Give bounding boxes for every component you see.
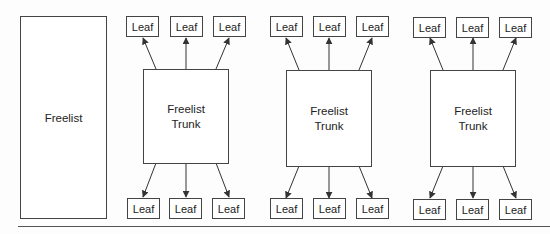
leaf-t1-top-2: Leaf — [170, 16, 203, 37]
leaf-t1-bottom-2: Leaf — [169, 198, 202, 219]
trunk-label-line2: Trunk — [172, 117, 201, 132]
trunk-label-line1: Freelist — [454, 104, 492, 119]
leaf-t3-bottom-3: Leaf — [499, 199, 532, 220]
leaf-t3-top-2: Leaf — [456, 17, 489, 38]
bottom-divider — [18, 226, 550, 227]
leaf-t2-top-3: Leaf — [356, 16, 389, 37]
leaf-t3-bottom-2: Leaf — [456, 199, 489, 220]
leaf-t2-bottom-1: Leaf — [270, 198, 303, 219]
leaf-t2-bottom-3: Leaf — [356, 198, 389, 219]
leaf-t1-bottom-3: Leaf — [212, 198, 245, 219]
leaf-t1-bottom-1: Leaf — [127, 198, 160, 219]
freelist-trunk-2: Freelist Trunk — [286, 70, 372, 167]
leaf-t2-top-2: Leaf — [313, 16, 346, 37]
trunk-label-line2: Trunk — [315, 119, 344, 134]
leaf-t1-top-1: Leaf — [126, 16, 159, 37]
leaf-t3-bottom-1: Leaf — [413, 199, 446, 220]
freelist-box: Freelist — [20, 16, 107, 219]
freelist-label: Freelist — [45, 112, 83, 124]
trunk-label-line1: Freelist — [310, 104, 348, 119]
trunk-label-line1: Freelist — [167, 102, 205, 117]
leaf-t3-top-1: Leaf — [413, 17, 446, 38]
freelist-trunk-1: Freelist Trunk — [143, 69, 229, 164]
freelist-trunk-3: Freelist Trunk — [430, 70, 516, 167]
trunk-label-line2: Trunk — [459, 119, 488, 134]
leaf-t3-top-3: Leaf — [499, 17, 532, 38]
leaf-t1-top-3: Leaf — [213, 16, 246, 37]
leaf-t2-bottom-2: Leaf — [313, 198, 346, 219]
freelist-diagram: Freelist Freelist Trunk Leaf Leaf Leaf L… — [0, 0, 550, 234]
leaf-t2-top-1: Leaf — [270, 16, 303, 37]
